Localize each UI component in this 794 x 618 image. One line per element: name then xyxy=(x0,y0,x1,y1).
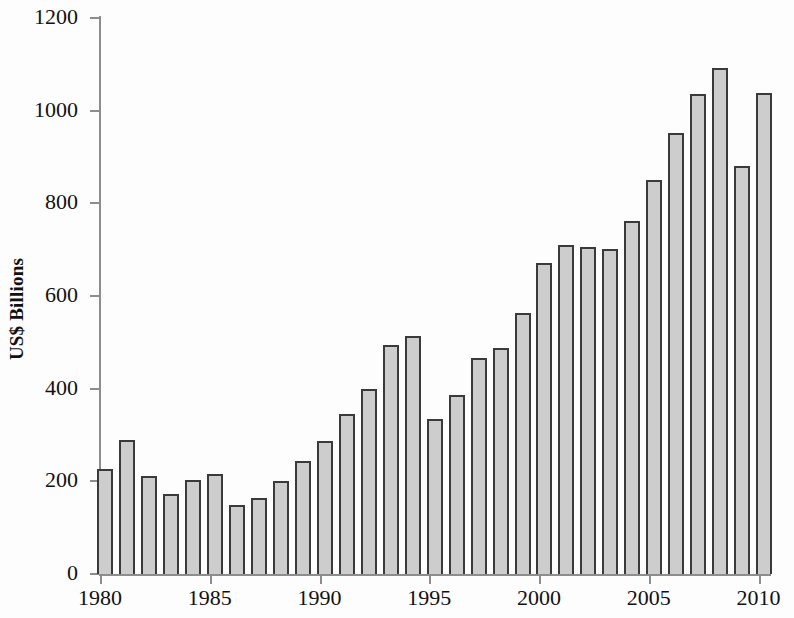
y-axis-tick-label: 800 xyxy=(8,191,78,213)
bar xyxy=(251,498,267,574)
x-axis-tick-label: 1980 xyxy=(60,586,140,610)
x-axis-tick xyxy=(649,575,651,584)
y-axis-tick-label: 1000 xyxy=(8,99,78,121)
y-axis-tick xyxy=(90,388,100,390)
bar xyxy=(119,440,135,574)
bar xyxy=(97,469,113,574)
bar xyxy=(515,313,531,574)
bar xyxy=(317,441,333,574)
x-axis-tick xyxy=(210,575,212,584)
x-axis-tick-label: 2005 xyxy=(609,586,689,610)
x-axis-tick xyxy=(100,575,102,584)
bar xyxy=(580,247,596,574)
bar xyxy=(536,263,552,574)
x-axis-tick xyxy=(320,575,322,584)
bar xyxy=(690,94,706,574)
x-axis-tick xyxy=(429,575,431,584)
bar xyxy=(383,345,399,574)
y-axis-tick xyxy=(90,202,100,204)
bar xyxy=(756,93,772,574)
x-axis-tick-label: 1985 xyxy=(170,586,250,610)
bar xyxy=(273,481,289,574)
bar xyxy=(427,419,443,574)
bar xyxy=(207,474,223,574)
bar xyxy=(558,245,574,574)
bar xyxy=(449,395,465,574)
y-axis-tick-label: 0 xyxy=(8,562,78,584)
bar xyxy=(493,348,509,574)
bar xyxy=(295,461,311,574)
bar xyxy=(668,133,684,574)
x-axis-tick xyxy=(759,575,761,584)
x-axis-tick xyxy=(539,575,541,584)
bar xyxy=(624,221,640,574)
x-axis-tick-label: 2000 xyxy=(499,586,579,610)
y-axis-tick-label: 600 xyxy=(8,284,78,306)
bar xyxy=(163,494,179,574)
bar xyxy=(712,68,728,574)
bar xyxy=(141,476,157,574)
y-axis-tick xyxy=(90,295,100,297)
x-axis-tick-label: 2010 xyxy=(719,586,794,610)
x-axis-line xyxy=(99,574,771,576)
bar xyxy=(361,389,377,574)
y-axis-tick-label: 200 xyxy=(8,469,78,491)
bar xyxy=(471,358,487,574)
y-axis-tick xyxy=(90,110,100,112)
y-axis-tick-label: 400 xyxy=(8,377,78,399)
bar xyxy=(339,414,355,574)
bar xyxy=(646,180,662,574)
y-axis-title-label: US$ Billions xyxy=(6,258,28,360)
bar xyxy=(185,480,201,574)
bar xyxy=(405,336,421,574)
bar xyxy=(734,166,750,574)
bar xyxy=(229,505,245,574)
x-axis-tick-label: 1995 xyxy=(389,586,469,610)
bar xyxy=(602,249,618,574)
bar-chart: US$ Billions 020040060080010001200 19801… xyxy=(0,0,794,618)
x-axis-tick-label: 1990 xyxy=(280,586,360,610)
y-axis-title: US$ Billions xyxy=(0,0,34,618)
y-axis-tick-label: 1200 xyxy=(8,6,78,28)
y-axis-tick xyxy=(90,17,100,19)
